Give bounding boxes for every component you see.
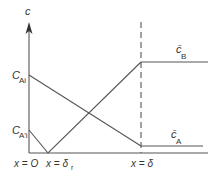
label-x-zero: x = O <box>13 158 38 169</box>
label-c-ai: C Ai <box>12 69 26 85</box>
c-ai-profile-line <box>29 75 141 146</box>
label-x-delta: x = δ <box>130 158 153 169</box>
label-c-bar-b: c̄ B <box>176 43 186 61</box>
concentration-profile-diagram: c C Ai C A'i c̄ B c̄ A x = O x = δ r x =… <box>0 0 220 181</box>
svg-text:B: B <box>181 52 186 61</box>
c-a-prime-i-profile-line <box>29 62 141 153</box>
svg-text:A: A <box>176 137 182 146</box>
svg-text:r: r <box>71 164 74 171</box>
label-c-bar-a: c̄ A <box>171 128 182 146</box>
label-c-a-prime-i: C A'i <box>12 124 28 140</box>
svg-text:x = δ: x = δ <box>45 158 68 169</box>
label-x-delta-r: x = δ r <box>45 158 74 171</box>
y-axis-label: c <box>25 5 31 17</box>
svg-text:Ai: Ai <box>19 76 26 85</box>
svg-text:A'i: A'i <box>19 131 28 140</box>
